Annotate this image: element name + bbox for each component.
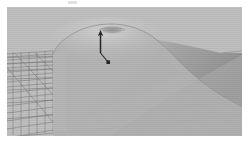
evaluation-point-marker (106, 60, 110, 64)
figure-container (0, 0, 248, 144)
scan-smudge-artifact (68, 1, 77, 4)
surface-plot-svg (7, 7, 242, 136)
surface-left-wall (53, 51, 67, 131)
surface-plot-area (7, 7, 242, 136)
